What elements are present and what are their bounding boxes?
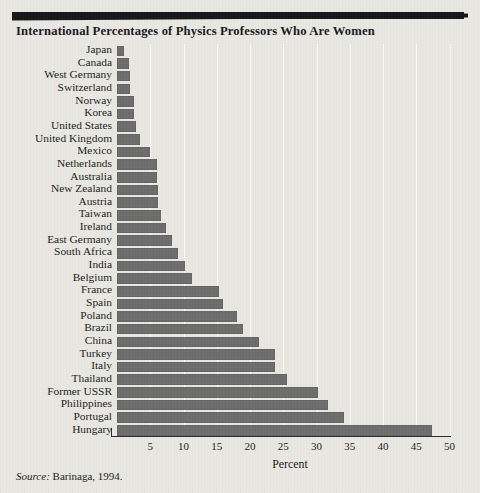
category-label: Philippines <box>61 397 112 409</box>
bar-row: Philippines <box>117 398 450 412</box>
category-label: United States <box>51 119 112 131</box>
bar-row: Taiwan <box>117 208 450 222</box>
bar-row: West Germany <box>117 69 450 83</box>
category-label: Australia <box>70 170 112 182</box>
category-label: Ireland <box>80 220 112 232</box>
bar <box>117 185 158 196</box>
x-tick-label: 5 <box>148 440 154 452</box>
category-label: France <box>81 283 112 295</box>
x-tick-label: 15 <box>211 440 222 452</box>
category-label: New Zealand <box>51 182 112 194</box>
bar <box>117 159 157 170</box>
category-label: Austria <box>78 195 112 207</box>
bar <box>117 337 259 348</box>
x-tick-label: 30 <box>311 440 322 452</box>
bar-row: United States <box>117 120 450 134</box>
bar <box>117 210 161 221</box>
category-label: Japan <box>86 43 112 55</box>
x-tick-label: 20 <box>245 440 256 452</box>
source-text: Barinaga, 1994. <box>53 470 123 482</box>
bar <box>117 71 130 82</box>
bar-row: France <box>117 284 450 298</box>
x-tick-label: 35 <box>344 440 355 452</box>
bar <box>117 324 243 335</box>
category-label: Spain <box>86 296 112 308</box>
chart-page: International Percentages of Physics Pro… <box>0 0 480 493</box>
category-label: Netherlands <box>57 157 112 169</box>
bar <box>117 387 318 398</box>
bar-row: East Germany <box>117 234 450 248</box>
bar-row: Australia <box>117 171 450 185</box>
category-label: India <box>89 258 112 270</box>
category-label: Italy <box>91 359 112 371</box>
plot-area: JapanCanadaWest GermanySwitzerlandNorway… <box>117 44 450 436</box>
category-label: Hungary <box>72 423 112 435</box>
bar <box>117 134 140 145</box>
x-tick-label: 25 <box>278 440 289 452</box>
bar-row: Korea <box>117 107 450 121</box>
bar-row: Mexico <box>117 145 450 159</box>
header-rule <box>12 12 464 19</box>
category-label: Former USSR <box>47 385 112 397</box>
category-label: Mexico <box>77 144 112 156</box>
bar <box>117 374 287 385</box>
category-label: Canada <box>78 56 112 68</box>
bar <box>117 400 328 411</box>
bar-row: Netherlands <box>117 158 450 172</box>
bar <box>117 299 223 310</box>
bar <box>117 311 237 322</box>
x-tick-label: 40 <box>378 440 389 452</box>
bar-row: Thailand <box>117 373 450 387</box>
bar-row: Italy <box>117 360 450 374</box>
category-label: United Kingdom <box>35 132 112 144</box>
category-label: Korea <box>84 106 112 118</box>
bar <box>117 261 185 272</box>
bar <box>117 46 124 57</box>
category-label: Thailand <box>72 372 113 384</box>
bar-row: Brazil <box>117 322 450 336</box>
x-tick-label: 50 <box>444 440 455 452</box>
bar <box>117 147 150 158</box>
bar-row: India <box>117 259 450 273</box>
category-label: Norway <box>75 94 112 106</box>
category-label: Switzerland <box>58 81 112 93</box>
bar <box>117 425 432 436</box>
bar-row: Hungary <box>117 424 450 438</box>
bar-row: Japan <box>117 44 450 58</box>
bar-row: Turkey <box>117 348 450 362</box>
category-label: Taiwan <box>79 207 112 219</box>
bar <box>117 273 192 284</box>
bar <box>117 96 134 107</box>
bar-row: Norway <box>117 95 450 109</box>
category-label: Belgium <box>73 271 112 283</box>
bar <box>117 248 178 259</box>
bar-row: Former USSR <box>117 386 450 400</box>
bar-row: Portugal <box>117 411 450 425</box>
category-label: Turkey <box>80 347 113 359</box>
bar-row: Canada <box>117 57 450 71</box>
bar-row: Belgium <box>117 272 450 286</box>
category-label: Brazil <box>84 321 112 333</box>
bar <box>117 286 219 297</box>
bar <box>117 121 136 132</box>
category-label: Poland <box>80 309 112 321</box>
bar-row: Spain <box>117 297 450 311</box>
source-note: Source: Barinaga, 1994. <box>16 470 123 482</box>
bar <box>117 197 158 208</box>
x-tick-label: 45 <box>411 440 422 452</box>
bar <box>117 412 344 423</box>
bar <box>117 223 166 234</box>
bar-row: United Kingdom <box>117 133 450 147</box>
bar-row: Austria <box>117 196 450 210</box>
category-label: East Germany <box>47 233 112 245</box>
bar <box>117 84 130 95</box>
bar-row: Poland <box>117 310 450 324</box>
bar-row: China <box>117 335 450 349</box>
bar <box>117 109 134 120</box>
category-label: Portugal <box>73 410 112 422</box>
bar-row: South Africa <box>117 246 450 260</box>
source-prefix: Source: <box>16 470 50 482</box>
bar-row: Ireland <box>117 221 450 235</box>
bar <box>117 58 129 69</box>
bar <box>117 235 172 246</box>
